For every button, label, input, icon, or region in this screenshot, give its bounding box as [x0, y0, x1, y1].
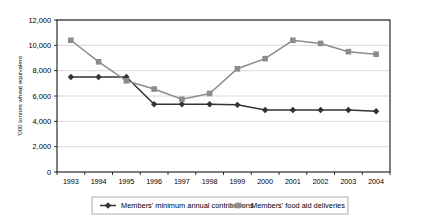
data-point-2-1995: [124, 78, 130, 84]
x-tick-label-2004: 2004: [368, 177, 384, 186]
legend-marker-2: [235, 203, 241, 209]
data-point-2-1993: [68, 37, 74, 43]
x-tick-label-2003: 2003: [340, 177, 356, 186]
x-tick-label-1998: 1998: [202, 177, 218, 186]
data-point-2-1994: [96, 59, 102, 65]
legend-label-2: Members' food aid deliveries: [251, 201, 345, 210]
y-tick-label-12000: 12,000: [28, 16, 51, 25]
x-tick-label-2001: 2001: [285, 177, 301, 186]
data-point-2-1999: [235, 66, 241, 72]
x-tick-label-2000: 2000: [257, 177, 273, 186]
x-tick-label-1995: 1995: [118, 177, 134, 186]
data-point-2-2004: [373, 51, 379, 57]
y-tick-label-0: 0: [47, 168, 51, 177]
chart-legend: Members' minimum annual contributionsMem…: [92, 197, 348, 214]
x-tick-label-1999: 1999: [229, 177, 245, 186]
data-point-2-1998: [207, 91, 213, 97]
x-tick-label-1997: 1997: [174, 177, 190, 186]
y-axis-title: '000 tonnes wheat equivalent: [16, 56, 23, 136]
y-axis: 02,0004,0006,0008,00010,00012,000: [28, 16, 57, 177]
x-tick-label-1996: 1996: [146, 177, 162, 186]
line-chart-canvas: 02,0004,0006,0008,00010,00012,000 199319…: [0, 0, 422, 223]
data-point-2-2000: [262, 56, 268, 62]
data-point-2-2003: [346, 49, 352, 55]
data-point-2-2002: [318, 41, 324, 47]
x-tick-label-2002: 2002: [313, 177, 329, 186]
data-point-2-1997: [179, 96, 185, 102]
y-tick-label-8000: 8,000: [33, 66, 52, 75]
chart-figure: 02,0004,0006,0008,00010,00012,000 199319…: [0, 0, 422, 223]
x-axis: 1993199419951996199719981999200020012002…: [57, 172, 390, 186]
y-tick-label-6000: 6,000: [33, 92, 52, 101]
y-tick-label-10000: 10,000: [28, 41, 51, 50]
x-tick-label-1994: 1994: [91, 177, 107, 186]
y-tick-label-4000: 4,000: [33, 117, 52, 126]
x-tick-label-1993: 1993: [63, 177, 79, 186]
data-point-2-1996: [151, 86, 157, 92]
y-tick-label-2000: 2,000: [33, 142, 52, 151]
data-point-2-2001: [290, 37, 296, 43]
